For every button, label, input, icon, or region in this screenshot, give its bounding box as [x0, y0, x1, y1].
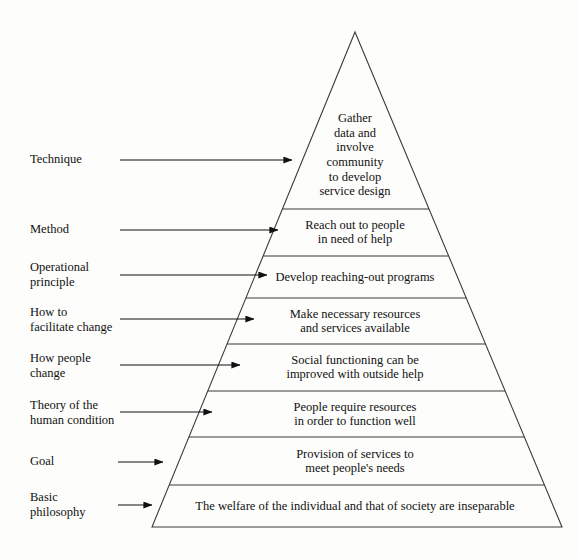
side-label-tier-operational-principle: Operational principle: [30, 260, 89, 290]
side-label-tier-how-people-change: How people change: [30, 351, 91, 381]
side-label-tier-basic-philosophy: Basic philosophy: [30, 490, 86, 520]
side-label-tier-technique: Technique: [30, 152, 82, 167]
pyramid-triangle: [152, 32, 562, 527]
side-label-tier-method: Method: [30, 222, 69, 237]
side-label-tier-facilitate-change: How to facilitate change: [30, 305, 112, 335]
side-label-tier-theory-human-condition: Theory of the human condition: [30, 398, 114, 428]
side-label-tier-goal: Goal: [30, 454, 54, 469]
pyramid-diagram: Gather data and involve community to dev…: [0, 0, 578, 559]
pyramid-outline: [152, 32, 562, 527]
label-arrows: [118, 160, 292, 505]
